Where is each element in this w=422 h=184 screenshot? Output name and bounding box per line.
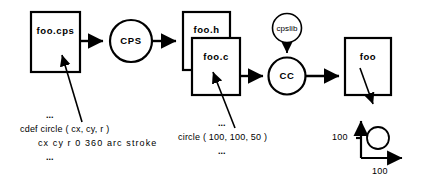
source-annotation-ellipsis-bottom: ... [46,152,54,162]
node-executable[interactable] [345,38,391,95]
output-plot-y-label: 100 [332,132,348,142]
node-source-file-label: foo.cps [37,25,75,36]
node-c-compiler-label: CC [280,70,295,81]
output-plot-circle [367,127,389,149]
diagram-canvas: foo.cps CPS foo.h foo.c cpslib CC foo ..… [0,0,422,184]
source-annotation-line-2: cx cy r 0 360 arc stroke [38,138,157,148]
c-annotation-line-1: circle ( 100, 100, 50 ) [178,132,267,142]
c-annotation-ellipsis-bottom: ... [218,146,226,156]
source-annotation-ellipsis-top: ... [46,110,54,120]
node-source-file[interactable] [31,12,80,72]
node-c-file-label: foo.c [203,51,229,62]
pipeline-diagram: foo.cps CPS foo.h foo.c cpslib CC foo ..… [0,0,422,184]
c-annotation-ellipsis-top: ... [218,118,226,128]
output-plot-x-label: 100 [372,166,388,176]
node-cps-compiler-label: CPS [120,35,141,46]
node-header-file-label: foo.h [193,24,219,35]
source-annotation-line-1: cdef circle ( cx, cy, r ) [20,124,109,134]
node-executable-label: foo [360,51,377,62]
node-c-file[interactable] [192,38,240,95]
node-cps-library-label: cpslib [276,24,298,33]
